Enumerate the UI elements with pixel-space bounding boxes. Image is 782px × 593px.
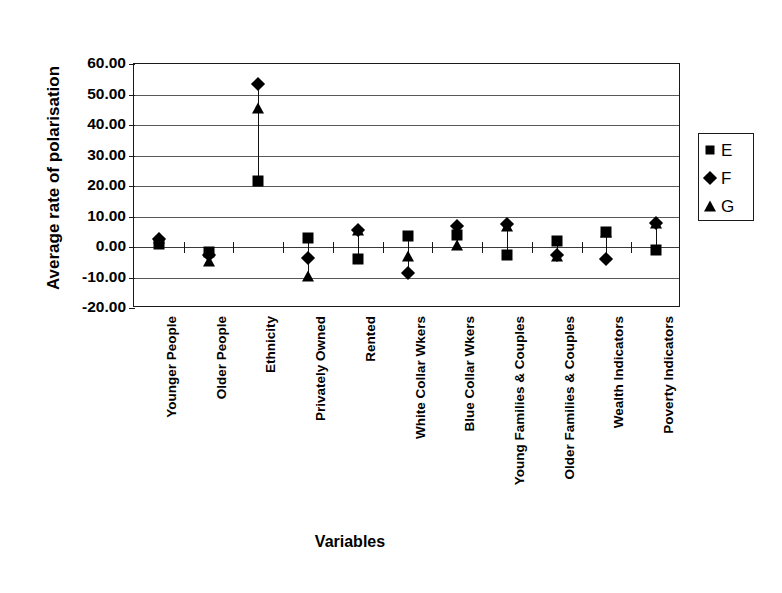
plot-area bbox=[133, 63, 680, 307]
y-tick-mark bbox=[129, 95, 135, 96]
x-axis-title: Variables bbox=[0, 533, 700, 551]
x-tick-label: White Collar Wkers bbox=[414, 316, 428, 516]
x-tick-label: Rented bbox=[364, 316, 378, 516]
diamond-marker-icon bbox=[699, 168, 721, 188]
x-tick-label: Privately Owned bbox=[314, 316, 328, 516]
y-tick-label: 50.00 bbox=[54, 86, 126, 102]
data-point-g bbox=[252, 103, 264, 114]
data-point-e bbox=[501, 249, 512, 260]
gridline bbox=[134, 125, 679, 126]
data-point-g bbox=[650, 217, 662, 228]
x-tick-mark bbox=[283, 242, 284, 253]
x-tick-mark bbox=[333, 242, 334, 253]
legend-item-e[interactable]: E bbox=[699, 136, 753, 164]
data-point-g bbox=[352, 225, 364, 236]
y-tick-mark bbox=[129, 156, 135, 157]
y-tick-label: 40.00 bbox=[54, 116, 126, 132]
x-tick-mark bbox=[233, 242, 234, 253]
gridline bbox=[134, 217, 679, 218]
legend-label: F bbox=[721, 170, 731, 187]
y-tick-label: 60.00 bbox=[54, 55, 126, 71]
range-connector-line bbox=[258, 84, 259, 182]
legend-label: E bbox=[721, 142, 732, 159]
chart-figure: Average rate of polarisation 60.0050.004… bbox=[0, 0, 782, 593]
x-tick-mark bbox=[184, 242, 185, 253]
x-tick-label: Younger People bbox=[165, 316, 179, 516]
y-tick-mark bbox=[129, 247, 135, 248]
legend-label: G bbox=[721, 198, 734, 215]
x-tick-label: Poverty Indicators bbox=[662, 316, 676, 516]
x-tick-mark bbox=[383, 242, 384, 253]
y-tick-mark bbox=[129, 278, 135, 279]
chart-legend: EFG bbox=[698, 133, 754, 221]
y-tick-label: 10.00 bbox=[54, 208, 126, 224]
x-tick-mark bbox=[631, 242, 632, 253]
data-point-f bbox=[599, 252, 613, 266]
x-tick-label: Older People bbox=[215, 316, 229, 516]
x-tick-label: Wealth Indicators bbox=[612, 316, 626, 516]
data-point-e bbox=[303, 232, 314, 243]
x-tick-mark bbox=[482, 242, 483, 253]
data-point-e bbox=[402, 231, 413, 242]
data-point-g bbox=[402, 251, 414, 262]
x-tick-label: Ethnicity bbox=[264, 316, 278, 516]
legend-item-f[interactable]: F bbox=[699, 164, 753, 192]
data-point-g bbox=[501, 220, 513, 231]
x-tick-mark bbox=[532, 242, 533, 253]
y-tick-mark bbox=[129, 125, 135, 126]
y-tick-label: -20.00 bbox=[54, 299, 126, 315]
data-point-g bbox=[302, 270, 314, 281]
y-tick-label: 0.00 bbox=[54, 238, 126, 254]
legend-item-g[interactable]: G bbox=[699, 192, 753, 220]
data-point-f bbox=[251, 77, 265, 91]
x-tick-label: Young Families & Couples bbox=[513, 316, 527, 516]
x-tick-mark bbox=[582, 242, 583, 253]
y-tick-label: -10.00 bbox=[54, 269, 126, 285]
zero-axis-line bbox=[134, 247, 679, 248]
gridline bbox=[134, 186, 679, 187]
triangle-marker-icon bbox=[699, 196, 721, 216]
data-point-e bbox=[253, 176, 264, 187]
x-tick-mark bbox=[432, 242, 433, 253]
data-point-g bbox=[551, 251, 563, 262]
x-tick-label: Older Families & Couples bbox=[563, 316, 577, 516]
gridline bbox=[134, 95, 679, 96]
data-point-f bbox=[301, 251, 315, 265]
gridline bbox=[134, 156, 679, 157]
y-tick-label: 20.00 bbox=[54, 177, 126, 193]
data-point-e bbox=[651, 245, 662, 256]
square-marker-icon bbox=[699, 140, 721, 160]
y-tick-mark bbox=[129, 217, 135, 218]
data-point-e bbox=[352, 254, 363, 265]
y-tick-mark bbox=[129, 64, 135, 65]
data-point-g bbox=[203, 255, 215, 266]
data-point-g bbox=[600, 226, 612, 237]
y-tick-label: 30.00 bbox=[54, 147, 126, 163]
data-point-g bbox=[451, 240, 463, 251]
data-point-g bbox=[153, 232, 165, 243]
data-point-e bbox=[551, 235, 562, 246]
y-axis-tick-labels: 60.0050.0040.0030.0020.0010.000.00-10.00… bbox=[48, 0, 126, 593]
x-tick-label: Blue Collar Wkers bbox=[463, 316, 477, 516]
y-tick-mark bbox=[129, 186, 135, 187]
y-tick-mark bbox=[129, 308, 135, 309]
